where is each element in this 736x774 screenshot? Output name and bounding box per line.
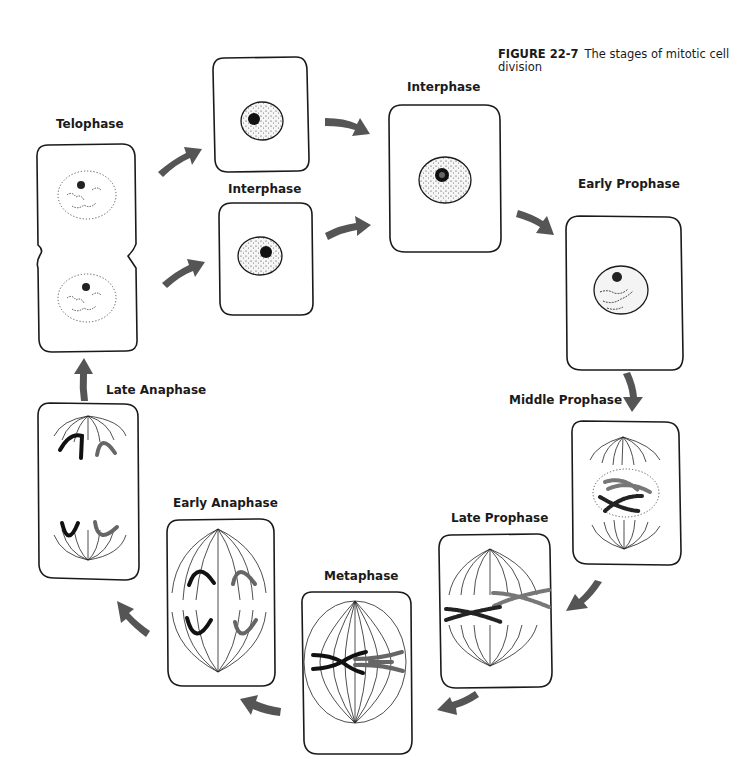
arrow-late-anaphase-to-telophase bbox=[74, 358, 93, 401]
telophase-nucleus-top bbox=[58, 171, 116, 219]
arrow-telophase-to-interphase-top bbox=[158, 147, 202, 177]
nucleus bbox=[238, 237, 282, 275]
cell-interphase bbox=[389, 105, 501, 252]
arrow-telophase-to-interphase-bottom bbox=[162, 259, 205, 288]
nucleolus-icon bbox=[260, 246, 272, 258]
arrow-daughter-bottom-to-interphase bbox=[325, 216, 371, 240]
arrow-late-prophase-to-metaphase bbox=[437, 691, 479, 715]
nucleolus-icon bbox=[77, 181, 85, 189]
cell-early-prophase bbox=[566, 216, 683, 370]
cell-late-anaphase bbox=[38, 403, 139, 580]
nucleus bbox=[241, 102, 283, 140]
cell-interphase-daughter-bottom bbox=[219, 203, 313, 315]
mitosis-diagram bbox=[0, 0, 736, 774]
cell-late-prophase bbox=[439, 534, 552, 688]
arrow-middle-prophase-to-late-prophase bbox=[566, 580, 602, 611]
arrow-early-anaphase-to-late-anaphase bbox=[117, 601, 150, 637]
nucleolus-icon bbox=[82, 283, 90, 291]
arrow-interphase-to-early-prophase bbox=[516, 210, 554, 235]
cell-metaphase bbox=[302, 592, 412, 754]
arrow-daughter-top-to-interphase bbox=[325, 118, 370, 136]
arrow-early-prophase-to-middle-prophase bbox=[623, 372, 643, 412]
nucleolus-icon bbox=[248, 113, 260, 125]
cell-interphase-daughter-top bbox=[213, 57, 309, 172]
arrows bbox=[74, 118, 643, 716]
nucleolus-icon bbox=[612, 272, 622, 282]
cell-early-anaphase bbox=[167, 519, 275, 686]
telophase-nucleus-bottom bbox=[58, 274, 116, 322]
cell-telophase bbox=[37, 144, 137, 352]
nucleus bbox=[594, 266, 648, 314]
arrow-metaphase-to-early-anaphase bbox=[240, 695, 281, 716]
cell-middle-prophase bbox=[572, 421, 681, 565]
